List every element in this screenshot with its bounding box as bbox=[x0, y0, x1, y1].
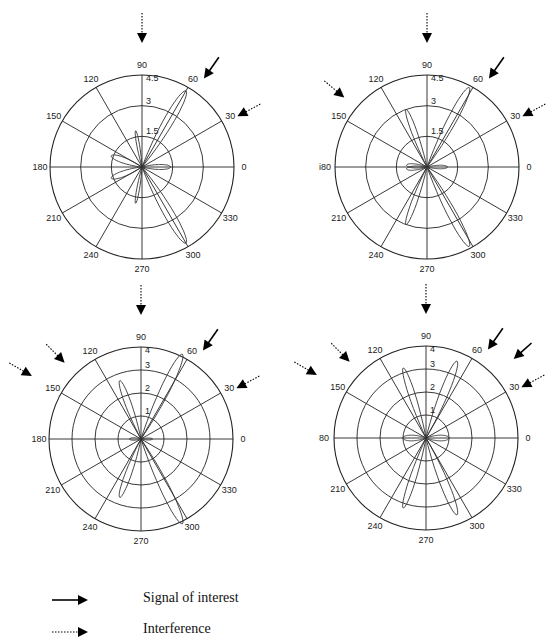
signal-arrow-icon bbox=[489, 57, 504, 78]
angle-tick-label: 0 bbox=[526, 162, 531, 172]
angle-tick-label: 240 bbox=[367, 521, 382, 531]
signal-arrow-icon bbox=[204, 57, 219, 78]
angle-tick-label: 270 bbox=[418, 535, 433, 545]
angle-tick-label: 30 bbox=[509, 382, 519, 392]
angle-tick-label: 90 bbox=[137, 60, 147, 70]
angle-tick-label: i80 bbox=[319, 162, 331, 172]
angle-tick-label: 0 bbox=[241, 162, 246, 172]
angle-tick-label: 180 bbox=[31, 434, 46, 444]
angle-tick-label: 300 bbox=[184, 522, 199, 532]
radial-tick-label: 3 bbox=[146, 96, 151, 106]
angle-tick-label: 210 bbox=[331, 213, 346, 223]
angle-tick-label: 180 bbox=[32, 162, 47, 172]
legend bbox=[52, 595, 88, 637]
radial-tick-label: 3 bbox=[431, 96, 436, 106]
polar-plot-top-right: 0306090120150i802102402703003301.534.5 bbox=[319, 13, 545, 274]
angle-tick-label: 330 bbox=[223, 213, 238, 223]
radial-tick-label: 4 bbox=[430, 344, 435, 354]
interference-arrow-icon bbox=[521, 375, 544, 387]
angle-tick-label: 0 bbox=[525, 433, 530, 443]
interference-arrow-icon bbox=[421, 284, 431, 314]
angle-tick-label: 60 bbox=[472, 345, 482, 355]
polar-plot-bottom-left: 03060901201501802102402703003301234 bbox=[9, 285, 259, 546]
angle-tick-label: 30 bbox=[225, 111, 235, 121]
interference-arrow-icon bbox=[522, 104, 545, 116]
radial-tick-label: 3 bbox=[145, 360, 150, 370]
radial-tick-label: 3 bbox=[430, 359, 435, 369]
signal-arrow-icon bbox=[488, 328, 503, 349]
interference-arrow-icon bbox=[331, 343, 349, 361]
beam-pattern-figure: 03060901201501802102402703003301.534.5 0… bbox=[0, 0, 549, 643]
angle-tick-label: 270 bbox=[419, 264, 434, 274]
angle-tick-label: 240 bbox=[368, 250, 383, 260]
interference-arrow-icon bbox=[422, 13, 432, 43]
interference-arrow-icon bbox=[294, 362, 317, 375]
angle-tick-label: 80 bbox=[319, 433, 329, 443]
angle-tick-label: 300 bbox=[469, 521, 484, 531]
angle-tick-label: 30 bbox=[510, 111, 520, 121]
angle-tick-label: 150 bbox=[45, 383, 60, 393]
radial-tick-label: 4.5 bbox=[431, 73, 444, 83]
radial-tick-label: 4 bbox=[145, 345, 150, 355]
radial-tick-label: 2 bbox=[430, 382, 435, 392]
interference-arrow-icon bbox=[46, 344, 64, 362]
dotted-arrow-icon bbox=[52, 627, 88, 637]
angle-tick-label: 330 bbox=[507, 484, 522, 494]
signal-arrow-icon bbox=[514, 343, 532, 359]
angle-tick-label: 60 bbox=[188, 74, 198, 84]
angle-tick-label: 330 bbox=[222, 485, 237, 495]
angle-tick-label: 120 bbox=[367, 345, 382, 355]
angle-tick-label: 0 bbox=[240, 434, 245, 444]
legend-label-signal: Signal of interest bbox=[143, 590, 239, 606]
angle-tick-label: 120 bbox=[368, 74, 383, 84]
interference-arrow-icon bbox=[9, 363, 32, 376]
angle-tick-label: 300 bbox=[470, 250, 485, 260]
signal-arrow-icon bbox=[203, 329, 218, 350]
angle-tick-label: 30 bbox=[224, 383, 234, 393]
angle-tick-label: 240 bbox=[82, 522, 97, 532]
interference-arrow-icon bbox=[136, 285, 146, 315]
angle-tick-label: 60 bbox=[187, 346, 197, 356]
angle-tick-label: 150 bbox=[331, 111, 346, 121]
interference-arrow-icon bbox=[324, 81, 344, 98]
radial-tick-label: 2 bbox=[145, 383, 150, 393]
angle-tick-label: 150 bbox=[330, 382, 345, 392]
interference-arrow-icon bbox=[237, 104, 260, 116]
polar-plot-top-left: 03060901201501802102402703003301.534.5 bbox=[32, 13, 260, 274]
interference-arrow-icon bbox=[137, 13, 147, 43]
angle-tick-label: 270 bbox=[133, 536, 148, 546]
angle-tick-label: 60 bbox=[473, 74, 483, 84]
radial-tick-label: 1.5 bbox=[146, 126, 159, 136]
angle-tick-label: 270 bbox=[134, 264, 149, 274]
angle-tick-label: 210 bbox=[45, 485, 60, 495]
polar-plot-bottom-right: 0306090120150802102402703003301234 bbox=[294, 284, 544, 545]
angle-tick-label: 150 bbox=[46, 111, 61, 121]
angle-tick-label: 330 bbox=[508, 213, 523, 223]
angle-tick-label: 210 bbox=[330, 484, 345, 494]
radial-tick-label: 4.5 bbox=[146, 73, 159, 83]
angle-tick-label: 120 bbox=[83, 74, 98, 84]
angle-tick-label: 90 bbox=[421, 331, 431, 341]
interference-arrow-icon bbox=[236, 376, 259, 388]
angle-tick-label: 90 bbox=[422, 60, 432, 70]
angle-tick-label: 90 bbox=[136, 332, 146, 342]
angle-tick-label: 240 bbox=[83, 250, 98, 260]
angle-tick-label: 210 bbox=[46, 213, 61, 223]
angle-tick-label: 300 bbox=[185, 250, 200, 260]
angle-tick-label: 120 bbox=[82, 346, 97, 356]
legend-label-interference: Interference bbox=[143, 621, 211, 637]
solid-arrow-icon bbox=[52, 595, 88, 605]
